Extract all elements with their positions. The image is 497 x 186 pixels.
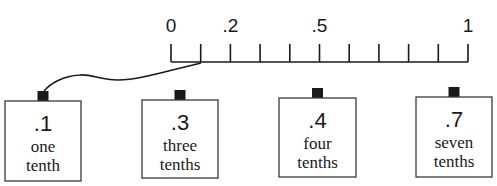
hanger-square-icon xyxy=(312,88,323,98)
tick-label: 0 xyxy=(166,15,177,36)
card-word-line1: four xyxy=(303,134,332,153)
tick-label: .2 xyxy=(222,15,238,36)
card-decimal: .4 xyxy=(308,108,326,133)
card-decimal: .1 xyxy=(34,111,52,136)
card-word-line2: tenths xyxy=(434,152,475,171)
decimal-card: .1onetenth xyxy=(5,91,81,181)
connector-curve xyxy=(44,63,201,91)
tick-label: .5 xyxy=(312,15,328,36)
card-decimal: .3 xyxy=(171,110,189,135)
card-decimal: .7 xyxy=(445,107,463,132)
card-word-line1: three xyxy=(163,136,197,155)
decimal-card: .3threetenths xyxy=(142,90,218,178)
card-word-line2: tenths xyxy=(160,155,201,174)
card-word-line2: tenths xyxy=(297,153,338,172)
card-word-line2: tenth xyxy=(26,156,60,175)
number-line-labels: 0.2.51 xyxy=(166,15,474,36)
decimal-cards: .1onetenth.3threetenths.4fourtenths.7sev… xyxy=(5,87,492,181)
hanger-square-icon xyxy=(38,91,49,101)
decimal-number-line-diagram: 0.2.51 .1onetenth.3threetenths.4fourtent… xyxy=(0,0,497,186)
card-word-line1: one xyxy=(31,137,56,156)
decimal-card: .4fourtenths xyxy=(279,88,356,177)
hanger-square-icon xyxy=(175,90,186,100)
tick-label: 1 xyxy=(463,15,474,36)
decimal-card: .7seventenths xyxy=(416,87,492,177)
hanger-square-icon xyxy=(449,87,460,97)
card-word-line1: seven xyxy=(435,133,474,152)
number-line xyxy=(171,44,468,62)
